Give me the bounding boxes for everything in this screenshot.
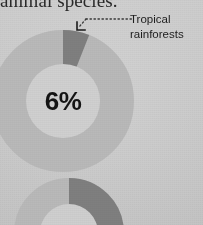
- leader-dotted-elbow: [79, 19, 86, 27]
- donut-center-percentage: 6%: [0, 86, 134, 117]
- donut-chart-secondary: [14, 178, 124, 225]
- callout-label-line2: rainforests: [130, 27, 202, 42]
- leader-corner-tick-icon: [77, 22, 85, 30]
- callout-label-tropical-rainforests: Tropical rainforests: [130, 12, 202, 41]
- page-headline: animal species.: [0, 0, 203, 11]
- donut-chart-tropical-rainforests: 6%: [0, 30, 134, 172]
- callout-label-line1: Tropical: [130, 12, 202, 27]
- infographic-page: animal species. 6% Tropical rainforests: [0, 0, 203, 225]
